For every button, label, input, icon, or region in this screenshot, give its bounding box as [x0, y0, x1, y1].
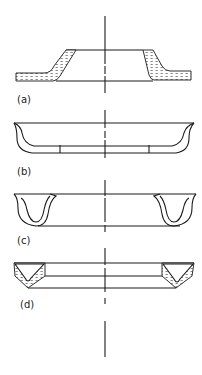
- panel-d-drawing: [14, 263, 194, 288]
- panel-c-label: (c): [17, 235, 30, 246]
- figure-canvas: (a) (b) (c) (d): [0, 0, 202, 375]
- panel-a-drawing: [16, 50, 191, 81]
- panel-b-drawing: [14, 123, 194, 153]
- panel-a-label: (a): [17, 94, 31, 105]
- panel-b-label: (b): [17, 166, 31, 177]
- panel-d-label: (d): [20, 299, 34, 310]
